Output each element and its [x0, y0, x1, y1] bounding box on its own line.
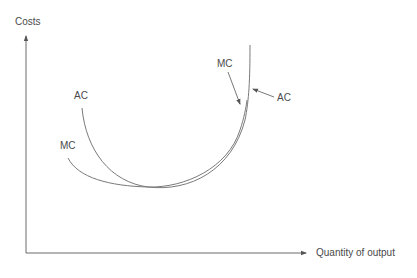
- mc-curve: [68, 100, 247, 187]
- x-axis-label: Quantity of output: [316, 248, 395, 258]
- ac-curve-label-left: AC: [74, 91, 88, 101]
- mc-curve-label-left: MC: [60, 141, 76, 151]
- cost-curves-diagram: Costs Quantity of output AC MC MC AC: [0, 0, 417, 278]
- y-axis-label: Costs: [15, 17, 41, 27]
- mc-pointer-arrow: [228, 72, 240, 104]
- ac-curve-label-right: AC: [277, 93, 291, 103]
- mc-curve-label-right: MC: [217, 59, 233, 69]
- ac-pointer-arrow: [253, 89, 274, 97]
- diagram-canvas: [0, 0, 417, 278]
